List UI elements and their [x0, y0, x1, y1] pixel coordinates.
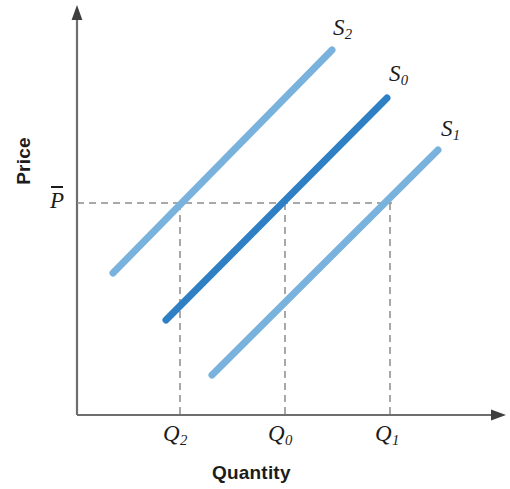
curve-label-s2-subscript: 2 — [345, 26, 352, 42]
supply-curve-s2 — [113, 50, 332, 273]
curve-label-s2: S2 — [333, 16, 352, 39]
plot-canvas — [0, 0, 510, 489]
quantity-label-q1: Q1 — [375, 422, 399, 445]
curve-label-s1-subscript: 1 — [453, 127, 460, 143]
supply-curve-s1 — [212, 150, 438, 375]
y-axis-arrowhead — [72, 5, 83, 20]
x-axis-title: Quantity — [212, 462, 291, 484]
y-axis-title: Price — [13, 121, 35, 201]
quantity-label-q0-base: Q — [268, 421, 285, 446]
price-level-label: P — [50, 186, 64, 212]
x-axis-arrowhead — [491, 410, 506, 421]
supply-curve-s0 — [166, 98, 387, 320]
quantity-label-q2: Q2 — [163, 422, 187, 445]
curve-label-s1-base: S — [441, 116, 453, 141]
curve-label-s0: S0 — [389, 62, 408, 85]
quantity-label-q1-subscript: 1 — [392, 432, 399, 448]
curve-label-s1: S1 — [441, 117, 460, 140]
quantity-label-q0-subscript: 0 — [285, 432, 292, 448]
supply-shift-figure: Price Quantity S2 S0 S1 P Q2 Q0 Q1 — [0, 0, 510, 489]
curve-label-s2-base: S — [333, 15, 345, 40]
quantity-label-q1-base: Q — [375, 421, 392, 446]
quantity-label-q0: Q0 — [268, 422, 292, 445]
quantity-label-q2-subscript: 2 — [180, 432, 187, 448]
price-level-glyph: P — [50, 189, 64, 212]
curve-label-s0-base: S — [389, 61, 401, 86]
quantity-label-q2-base: Q — [163, 421, 180, 446]
curve-label-s0-subscript: 0 — [401, 72, 408, 88]
